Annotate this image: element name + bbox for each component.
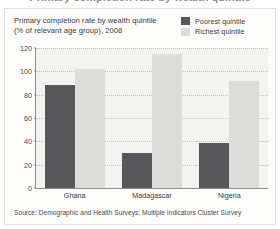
bar-madagascar-richest-quintile[interactable] [152,54,182,188]
chart-card: Primary completion rate by wealth quinti… [4,8,276,225]
clipped-page-heading: Primary completion rate by wealth quinti… [0,0,280,3]
y-axis-tick-label: 120 [20,44,32,53]
bar-group: Ghana [36,48,113,188]
source-note: Source: Demographic and Health Surveys; … [14,209,241,216]
bar-nigeria-poorest-quintile[interactable] [199,143,229,189]
legend-item-richest: Richest quintile [181,27,267,38]
bar-ghana-richest-quintile[interactable] [75,69,105,188]
y-axis-tick-label: 100 [20,67,32,76]
legend-item-poorest: Poorest quintile [181,16,267,27]
x-axis-tick-label: Ghana [64,191,86,200]
plot-area: 020406080100120 GhanaMadagascarNigeria [35,48,268,189]
x-axis-tick-label: Nigeria [218,191,241,200]
legend-swatch-icon-richest [181,28,190,36]
legend-label-poorest: Poorest quintile [195,17,245,26]
legend-label-richest: Richest quintile [195,27,245,36]
bar-nigeria-richest-quintile[interactable] [229,81,259,188]
y-axis-tick-label: 0 [28,184,32,193]
bar-group: Nigeria [191,48,268,188]
x-axis-tick-label: Madagascar [132,191,172,200]
y-axis-tick-label: 40 [24,137,32,146]
chart-title-line-1: Primary completion rate by wealth quinti… [14,16,199,26]
chart-title-line-2: (% of relevant age group), 2008 [14,26,199,36]
legend-swatch-icon-poorest [181,17,190,25]
chart-figure: Primary completion rate by wealth quinti… [0,0,280,229]
chart-legend: Poorest quintile Richest quintile [181,16,267,37]
bar-madagascar-poorest-quintile[interactable] [122,153,152,188]
chart-title: Primary completion rate by wealth quinti… [14,16,199,37]
bars-group: GhanaMadagascarNigeria [36,48,268,188]
bar-group: Madagascar [113,48,190,188]
y-axis-tick-label: 60 [24,114,32,123]
bar-ghana-poorest-quintile[interactable] [45,85,75,188]
y-axis-tick-label: 20 [24,160,32,169]
y-axis-tick-label: 80 [24,90,32,99]
